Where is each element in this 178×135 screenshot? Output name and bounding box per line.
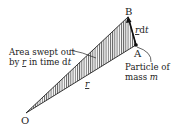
point-label-b: B [125,6,132,17]
particle-label-line2: mass m [125,72,158,82]
particle-dot [134,43,138,47]
rdot-dt-label: rdt [135,25,149,35]
area-swept-diagram: B A O rdt Area swept out by r in time dt… [0,0,178,135]
area-label-line2: by r in time dt [9,57,72,67]
radius-label: r [85,79,90,89]
particle-label-line1: Particle of [125,62,170,72]
point-label-o: O [21,115,29,126]
area-label-line1: Area swept out [8,47,76,57]
point-label-a: A [133,48,142,59]
